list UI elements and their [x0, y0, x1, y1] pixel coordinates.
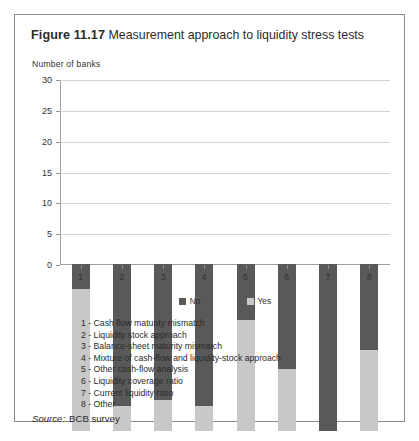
category-key-item: 1 - Cash flow maturity mismatch	[81, 318, 281, 330]
y-axis-tick	[56, 173, 60, 174]
bar-stack[interactable]	[360, 98, 378, 265]
category-key-item: 7 - Current liquidity ratio	[81, 388, 281, 400]
bar-stack[interactable]	[195, 98, 213, 265]
figure-number: Figure 11.17	[31, 28, 105, 42]
bar-segment-yes[interactable]	[360, 350, 378, 430]
x-axis-tick-label: 1	[78, 272, 83, 282]
y-axis-tick	[56, 111, 60, 112]
y-axis-tick-label: 0	[47, 260, 52, 270]
x-axis-tick	[328, 265, 329, 269]
category-key-item: 8 - Other	[81, 399, 281, 411]
bar-stack[interactable]	[72, 98, 90, 265]
category-key-list: 1 - Cash flow maturity mismatch2 - Liqui…	[81, 318, 281, 411]
legend-entry: No	[179, 296, 201, 306]
x-axis-line	[60, 264, 390, 265]
source-label: Source:	[32, 413, 65, 424]
x-axis-tick-label: 7	[326, 272, 331, 282]
x-axis-tick	[287, 265, 288, 269]
x-axis-tick	[204, 265, 205, 269]
grid-line	[60, 142, 390, 143]
grid-line	[60, 173, 390, 174]
grid-line	[60, 80, 390, 81]
y-axis-tick-label: 5	[47, 229, 52, 239]
x-axis-tick-label: 8	[367, 272, 372, 282]
x-axis-tick-label: 6	[284, 272, 289, 282]
bar-stack[interactable]	[319, 98, 337, 265]
category-key-item: 4 - Mixture of cash-flow and liquidity-s…	[81, 353, 281, 365]
x-axis-tick-label: 3	[161, 272, 166, 282]
y-axis-tick	[56, 265, 60, 266]
y-axis-tick-label: 30	[42, 75, 52, 85]
legend-label: Yes	[258, 296, 272, 306]
figure-panel: Figure 11.17 Measurement approach to liq…	[14, 14, 405, 422]
bar-stack[interactable]	[278, 98, 296, 265]
category-key-item: 3 - Balance-sheet maturity mismatch	[81, 341, 281, 353]
y-axis-tick-label: 25	[42, 106, 52, 116]
chart-legend: NoYes	[60, 296, 390, 306]
grid-line	[60, 111, 390, 112]
x-axis-tick	[163, 265, 164, 269]
legend-entry: Yes	[247, 296, 272, 306]
y-axis-tick	[56, 142, 60, 143]
y-axis-tick	[56, 203, 60, 204]
bar-segment-no[interactable]	[319, 264, 337, 431]
x-axis-tick-label: 4	[202, 272, 207, 282]
chart-plot-area: 05101520253012345678	[60, 80, 390, 265]
bar-stack[interactable]	[154, 98, 172, 265]
source-value: BCB survey	[69, 413, 120, 424]
category-key-item: 6 - Liquidity coverage ratio	[81, 376, 281, 388]
y-axis-tick-label: 10	[42, 198, 52, 208]
x-axis-tick	[81, 265, 82, 269]
category-key-item: 5 - Other cash-flow analysis	[81, 364, 281, 376]
legend-swatch-icon	[179, 298, 186, 305]
grid-line	[60, 203, 390, 204]
y-axis-tick-label: 15	[42, 168, 52, 178]
x-axis-tick	[369, 265, 370, 269]
grid-line	[60, 234, 390, 235]
category-key-item: 2 - Liquidity stock approach	[81, 330, 281, 342]
x-axis-tick	[246, 265, 247, 269]
bar-stack[interactable]	[237, 98, 255, 265]
y-axis-tick	[56, 80, 60, 81]
y-axis-caption: Number of banks	[32, 59, 100, 69]
legend-swatch-icon	[247, 298, 254, 305]
x-axis-tick-label: 2	[119, 272, 124, 282]
y-axis-tick-label: 20	[42, 137, 52, 147]
y-axis-tick	[56, 234, 60, 235]
bar-stack[interactable]	[113, 98, 131, 265]
source-note: Source:BCB survey	[32, 413, 120, 424]
x-axis-tick-label: 5	[243, 272, 248, 282]
legend-label: No	[190, 296, 201, 306]
figure-title: Figure 11.17 Measurement approach to liq…	[31, 28, 392, 43]
x-axis-tick	[122, 265, 123, 269]
figure-title-text: Measurement approach to liquidity stress…	[108, 28, 364, 42]
